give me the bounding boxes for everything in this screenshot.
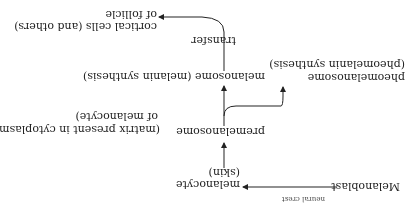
node-melanoblast: Melanoblast bbox=[331, 181, 400, 192]
node-premelanosome-note-2: of melanocyte) bbox=[75, 111, 158, 122]
node-cortical-follicle: of follicle bbox=[105, 9, 157, 20]
node-melanocyte-note: (skin) bbox=[209, 167, 241, 178]
edge-label-neural-crest: neural crest bbox=[282, 193, 325, 204]
node-melanosome: melanosome (melanin synthesis) bbox=[83, 71, 265, 82]
node-cortical-cells: cortical cells (and others) bbox=[14, 21, 157, 32]
edge-label-transfer: transfer bbox=[191, 35, 236, 46]
node-pheomelanosome: pheomelanosome bbox=[308, 72, 405, 83]
node-premelanosome-note-1: (matrix present in cytoplasm bbox=[0, 124, 160, 135]
node-pheomelanosome-note: (pheomelanin synthesis) bbox=[269, 59, 405, 70]
node-premelanosome: premelanosome bbox=[176, 126, 265, 137]
node-melanocyte: melanocyte bbox=[176, 179, 240, 190]
melanin-pathway-diagram: Melanoblast neural crest melanocyte (ski… bbox=[0, 0, 417, 216]
arrow-premelanosome-to-pheomelanosome bbox=[224, 87, 283, 116]
